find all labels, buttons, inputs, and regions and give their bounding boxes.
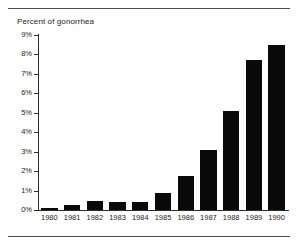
bar-1981 xyxy=(64,205,80,210)
bar-1982 xyxy=(87,201,103,210)
x-tick-label: 1984 xyxy=(129,213,152,223)
y-tick-label: 0% xyxy=(21,205,32,214)
y-tick-label: 7% xyxy=(21,69,32,78)
x-tick-label: 1983 xyxy=(106,213,129,223)
x-tick-label: 1988 xyxy=(220,213,243,223)
bar-slot xyxy=(64,35,80,210)
bar-slot xyxy=(246,35,262,210)
x-tick-label: 1990 xyxy=(265,213,288,223)
figure-container: Percent of gonorrhea 0%1%2%3%4%5%6%7%8%9… xyxy=(0,0,298,246)
bar-1987 xyxy=(200,150,216,210)
y-tick-label: 6% xyxy=(21,88,32,97)
x-tick-label: 1985 xyxy=(152,213,175,223)
x-tick-label: 1989 xyxy=(243,213,266,223)
bar-slot xyxy=(155,35,171,210)
bottom-rule xyxy=(8,236,290,237)
bar-1985 xyxy=(155,193,171,211)
x-axis-labels: 1980198119821983198419851986198719881989… xyxy=(38,213,288,227)
x-tick-label: 1981 xyxy=(61,213,84,223)
x-tick-label: 1980 xyxy=(38,213,61,223)
bar-slot xyxy=(200,35,216,210)
y-tick-mark xyxy=(34,210,38,211)
x-tick-label: 1986 xyxy=(174,213,197,223)
y-tick-label: 5% xyxy=(21,108,32,117)
y-tick-label: 9% xyxy=(21,30,32,39)
bar-slot xyxy=(109,35,125,210)
bar-slot xyxy=(223,35,239,210)
x-tick-label: 1982 xyxy=(83,213,106,223)
bar-slot xyxy=(87,35,103,210)
top-rule xyxy=(8,8,290,9)
y-tick-label: 3% xyxy=(21,147,32,156)
bar-slot xyxy=(41,35,57,210)
bar-1990 xyxy=(268,45,284,210)
bar-slot xyxy=(132,35,148,210)
x-axis-line xyxy=(38,210,289,211)
bar-series xyxy=(38,35,288,210)
page-title: Percent of gonorrhea xyxy=(17,17,94,26)
bar-1988 xyxy=(223,111,239,210)
y-tick-label: 1% xyxy=(21,186,32,195)
y-tick-label: 4% xyxy=(21,127,32,136)
bar-1989 xyxy=(246,60,262,210)
bar-1986 xyxy=(178,176,194,210)
bar-1983 xyxy=(109,202,125,210)
y-tick-label: 8% xyxy=(21,49,32,58)
bar-slot xyxy=(268,35,284,210)
bar-1980 xyxy=(41,208,57,210)
x-tick-label: 1987 xyxy=(197,213,220,223)
y-tick-label: 2% xyxy=(21,166,32,175)
bar-1984 xyxy=(132,202,148,210)
bar-slot xyxy=(178,35,194,210)
plot-area: 0%1%2%3%4%5%6%7%8%9% xyxy=(38,35,288,210)
